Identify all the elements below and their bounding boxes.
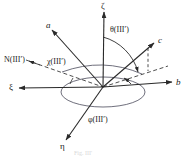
projection-angle-arc: [124, 78, 131, 84]
axis-line-b: [103, 82, 172, 87]
diagram-svg: [0, 0, 188, 158]
axis-line-zeta: [103, 12, 104, 87]
axis-label-c: c: [158, 36, 162, 45]
axis-label-eta: η: [60, 142, 65, 151]
axis-label-zeta: ζ: [101, 2, 105, 11]
axis-line-xi: [19, 87, 103, 88]
axis-label-xi: ξ: [9, 83, 13, 92]
figure-root: ζ ξ b η a c θ(III′) φ(III′) N(III′) χ(II…: [0, 0, 188, 158]
upper-plane-arc: [62, 65, 142, 74]
c-projection-dashed: [103, 66, 168, 87]
chi-angle-label: χ(III′): [47, 58, 66, 66]
angle-label-phi: φ(III′): [88, 116, 108, 124]
axis-label-a: a: [46, 21, 51, 30]
node-line-arrow: [29, 61, 40, 65]
chi-angle-arc: [70, 78, 73, 84]
axis-line-eta: [66, 87, 103, 140]
node-line-label: N(III′): [4, 56, 25, 64]
figure-caption: Fig. III': [74, 150, 92, 156]
angle-label-theta: θ(III′): [110, 26, 129, 34]
axis-label-b: b: [176, 78, 181, 87]
